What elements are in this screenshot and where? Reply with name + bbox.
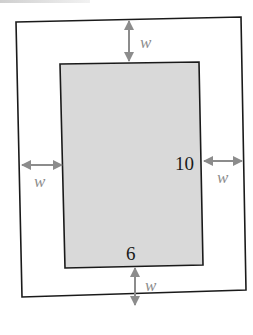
label-inner-height: 10 [175, 153, 194, 174]
label-top-w: w [140, 33, 152, 52]
label-bottom-w: w [145, 276, 157, 295]
label-inner-width: 6 [126, 243, 136, 264]
label-left-w: w [34, 172, 46, 191]
label-right-w: w [217, 168, 229, 187]
border-diagram: w w w w 10 6 [0, 0, 253, 335]
